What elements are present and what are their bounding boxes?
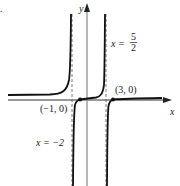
function-graph: . x y (−1, 0) (3, 0) x = −2 x = 5 2 [0,0,180,186]
asymptote-right-label: x = 5 2 [110,31,137,53]
corner-mark: . [0,3,3,14]
x-axis-label: x [169,106,175,117]
curve-left-branch [8,14,71,95]
point-right-label: (3, 0) [115,84,137,96]
fraction-denominator: 2 [131,42,136,53]
asymptote-left-label: x = −2 [35,137,64,148]
y-axis [84,3,90,186]
fraction-numerator: 5 [131,31,136,42]
curve-right-branch [107,98,162,186]
y-axis-label: y [78,3,84,14]
point-left-label: (−1, 0) [40,103,67,115]
svg-text:x =: x = [110,38,125,49]
point-left-intercept [78,98,82,102]
point-right-intercept [111,98,115,102]
